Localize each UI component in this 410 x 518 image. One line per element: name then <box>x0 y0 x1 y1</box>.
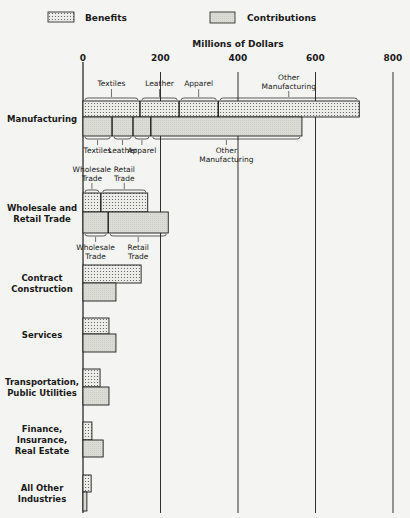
segment-label-benefits-retail-trade: RetailTrade <box>113 165 135 183</box>
category-label-transportation-public-utilities: Transportation,Public Utilities <box>5 377 79 398</box>
bar-contributions-contract-construction <box>83 283 116 301</box>
segment-bracket-contributions-other-manufacturing <box>153 137 300 139</box>
bar-contributions-services <box>83 334 116 352</box>
category-label-finance-insurance-real-estate: Finance,Insurance,Real Estate <box>15 424 70 456</box>
segment-bracket-contributions-leather <box>114 137 131 139</box>
category-label-services: Services <box>22 330 62 340</box>
bar-benefits-contract-construction <box>83 265 141 283</box>
bar-contributions-manufacturing <box>83 117 302 136</box>
segment-bracket-contributions-textiles <box>85 137 110 139</box>
segment-label-benefits-wholesale-trade: WholesaleTrade <box>73 165 112 183</box>
x-tick-label-0: 0 <box>80 53 86 63</box>
x-tick-label-200: 200 <box>151 53 170 63</box>
bar-contributions-all-other-industries <box>83 492 87 511</box>
segment-bracket-benefits-apparel <box>181 98 216 100</box>
legend: Benefits Contributions <box>48 12 316 23</box>
segment-label-contributions-retail-trade: RetailTrade <box>127 243 149 261</box>
x-tick-label-600: 600 <box>306 53 325 63</box>
x-tick-labels: 0200400600800 <box>80 53 403 63</box>
category-label-all-other-industries: All OtherIndustries <box>18 483 66 504</box>
bar-benefits-wholesale-and-retail-trade <box>83 193 148 212</box>
bar-benefits-all-other-industries <box>83 475 91 492</box>
x-tick-label-400: 400 <box>229 53 248 63</box>
segment-bracket-benefits-wholesale-trade <box>85 190 99 192</box>
x-axis-title: Millions of Dollars <box>192 39 283 49</box>
bar-benefits-manufacturing <box>83 101 359 117</box>
legend-swatch-contributions <box>210 12 235 23</box>
legend-item-benefits: Benefits <box>48 12 127 23</box>
segment-label-benefits-textiles: Textiles <box>97 79 126 88</box>
segment-label-benefits-leather: Leather <box>145 79 175 88</box>
segment-label-contributions-wholesale-trade: WholesaleTrade <box>76 243 115 261</box>
segment-bracket-benefits-retail-trade <box>103 190 146 192</box>
category-labels: ManufacturingWholesale andRetail TradeCo… <box>5 114 79 504</box>
bar-benefits-services <box>83 318 109 334</box>
legend-item-contributions: Contributions <box>210 12 316 23</box>
segment-label-benefits-other-manufacturing: OtherManufacturing <box>262 73 317 91</box>
segment-bracket-contributions-apparel <box>135 137 149 139</box>
category-label-wholesale-and-retail-trade: Wholesale andRetail Trade <box>7 203 77 224</box>
segment-label-contributions-apparel: Apparel <box>127 146 156 155</box>
bar-contributions-finance-insurance-real-estate <box>83 440 103 457</box>
chart: Benefits Contributions Millions of Dolla… <box>0 0 410 518</box>
bar-benefits-finance-insurance-real-estate <box>83 422 92 440</box>
segment-bracket-contributions-wholesale-trade <box>85 234 106 236</box>
bar-benefits-transportation-public-utilities <box>83 369 100 387</box>
category-label-manufacturing: Manufacturing <box>7 114 77 124</box>
segment-bracket-benefits-leather <box>142 98 177 100</box>
x-tick-label-800: 800 <box>384 53 403 63</box>
legend-label-contributions: Contributions <box>247 13 316 23</box>
segment-bracket-benefits-textiles <box>85 98 138 100</box>
segment-label-benefits-apparel: Apparel <box>184 79 213 88</box>
category-label-contract-construction: ContractConstruction <box>11 273 72 294</box>
segment-bracket-benefits-other-manufacturing <box>220 98 357 100</box>
segment-label-contributions-other-manufacturing: OtherManufacturing <box>199 146 254 164</box>
legend-label-benefits: Benefits <box>85 13 127 23</box>
segment-bracket-contributions-retail-trade <box>110 234 166 236</box>
bar-contributions-transportation-public-utilities <box>83 387 109 405</box>
legend-swatch-benefits <box>48 12 74 22</box>
bar-contributions-wholesale-and-retail-trade <box>83 212 168 233</box>
